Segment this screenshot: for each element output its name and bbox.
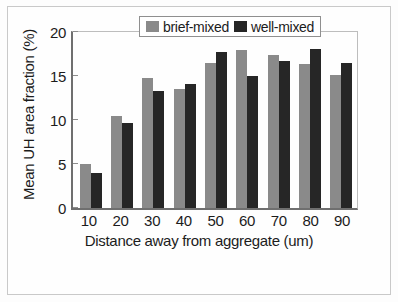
x-axis-tick-label: 70 (271, 212, 287, 229)
y-axis-tick-label: 10 (50, 112, 66, 129)
bar-group (111, 32, 133, 208)
bar-brief-mixed-40 (174, 89, 185, 208)
x-axis-tick-label: 30 (144, 212, 160, 229)
bar-brief-mixed-20 (111, 116, 122, 208)
y-axis-tick-label: 15 (50, 68, 66, 85)
bar-group (330, 32, 352, 208)
bar-well-mixed-50 (216, 52, 227, 208)
bar-well-mixed-20 (122, 123, 133, 208)
bar-series-container (75, 32, 357, 208)
x-axis-tick-label: 40 (176, 212, 192, 229)
bar-well-mixed-30 (153, 91, 164, 208)
plot-area: 05101520 (71, 31, 358, 210)
figure-container: Mean UH area fraction (%) 05101520 10203… (0, 0, 398, 302)
chart-legend: brief-mixedwell-mixed (139, 16, 321, 37)
bar-group (80, 32, 102, 208)
bar-brief-mixed-80 (299, 64, 310, 208)
y-axis-tick-label: 0 (58, 200, 66, 217)
bar-group (268, 32, 290, 208)
bar-brief-mixed-30 (142, 78, 153, 208)
bar-well-mixed-70 (279, 61, 290, 208)
x-axis-tick-label: 80 (302, 212, 318, 229)
bar-well-mixed-10 (91, 173, 102, 208)
legend-entry-well-mixed: well-mixed (234, 19, 314, 35)
bar-group (142, 32, 164, 208)
y-axis-title: Mean UH area fraction (%) (20, 25, 37, 205)
bar-group (174, 32, 196, 208)
x-axis-tick-label: 50 (207, 212, 223, 229)
x-axis-tick-label: 10 (81, 212, 97, 229)
y-axis-tick-label: 20 (50, 24, 66, 41)
bar-well-mixed-80 (310, 49, 321, 208)
brief-mixed-swatch (146, 21, 159, 32)
x-axis-tick-label: 60 (239, 212, 255, 229)
bar-group (205, 32, 227, 208)
bar-well-mixed-60 (247, 76, 258, 208)
bar-brief-mixed-10 (80, 164, 91, 208)
bar-well-mixed-90 (341, 63, 352, 208)
bar-brief-mixed-60 (236, 50, 247, 208)
y-axis-tick-label: 5 (58, 156, 66, 173)
bar-brief-mixed-50 (205, 63, 216, 208)
bar-brief-mixed-70 (268, 55, 279, 208)
bar-group (236, 32, 258, 208)
x-axis-ticks: 102030405060708090 (73, 212, 358, 229)
bar-group (299, 32, 321, 208)
legend-entry-brief-mixed: brief-mixed (146, 19, 229, 35)
legend-label: brief-mixed (163, 19, 229, 35)
well-mixed-swatch (234, 21, 247, 32)
x-axis-title: Distance away from aggregate (um) (0, 232, 398, 249)
x-axis-tick-label: 90 (334, 212, 350, 229)
bar-brief-mixed-90 (330, 75, 341, 208)
x-axis-tick-label: 20 (112, 212, 128, 229)
legend-label: well-mixed (251, 19, 314, 35)
bar-well-mixed-40 (185, 84, 196, 208)
